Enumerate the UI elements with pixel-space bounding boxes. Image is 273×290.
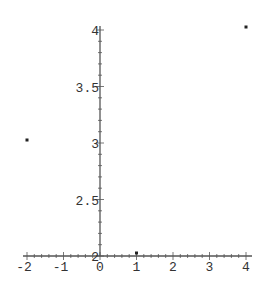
x-tick-label: -1 bbox=[53, 260, 69, 275]
tick-labels: -2-10123422.533.54 bbox=[16, 24, 250, 275]
data-point bbox=[245, 26, 248, 29]
x-tick-label: 3 bbox=[206, 260, 214, 275]
x-tick-label: 2 bbox=[169, 260, 177, 275]
scatter-plot: -2-10123422.533.54 bbox=[0, 0, 273, 290]
data-point bbox=[135, 252, 138, 255]
x-tick-label: -2 bbox=[16, 260, 32, 275]
y-tick-label: 3 bbox=[91, 137, 99, 152]
data-point bbox=[26, 139, 29, 142]
axis-ticks bbox=[27, 30, 246, 260]
data-points bbox=[26, 26, 248, 255]
x-tick-label: 4 bbox=[242, 260, 250, 275]
axes bbox=[23, 26, 252, 256]
y-tick-label: 2 bbox=[91, 250, 99, 265]
y-tick-label: 3.5 bbox=[76, 81, 99, 96]
y-tick-label: 2.5 bbox=[76, 194, 99, 209]
x-tick-label: 1 bbox=[133, 260, 141, 275]
y-tick-label: 4 bbox=[91, 24, 99, 39]
